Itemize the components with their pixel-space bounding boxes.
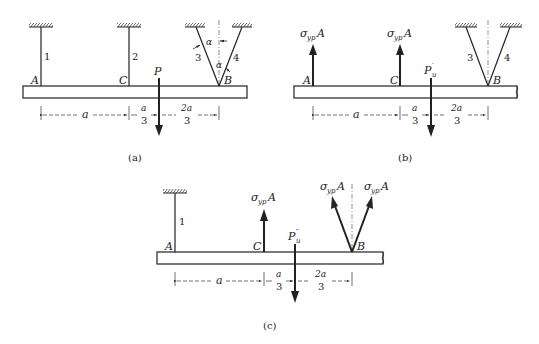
load-label: P u ′ [423,62,437,79]
bar-label: 3 [195,52,201,63]
bar-label: 4 [233,52,239,63]
angle-label: α [206,37,212,47]
point-label: A [30,74,39,87]
force-label-C: σ yp A [251,191,276,206]
bar-label: 1 [179,216,185,227]
point-label: C [119,74,128,87]
svg-text:A: A [316,27,325,40]
panel-c: 1 σ yp A σ yp A σ yp A A C B P u [157,180,389,331]
beam [294,86,517,98]
dimension-label: 2a [450,103,462,113]
dimension-label: a [82,108,89,121]
svg-text:A: A [403,27,412,40]
ceiling-support [29,23,252,27]
svg-text:yp: yp [370,187,380,195]
bar-label: 4 [504,52,510,63]
bar-label: 1 [44,51,50,62]
point-label: A [302,74,311,87]
svg-text:yp: yp [393,34,403,42]
point-label: B [356,240,365,253]
svg-text:A: A [267,191,276,204]
dimension-label: 3 [412,115,418,126]
bar-label: 2 [132,51,138,62]
dimension-label: a [216,274,223,287]
beam [157,252,383,264]
force-label-B4: σ yp A [364,180,389,195]
dimension-label: a [353,108,360,121]
dimension-label: 3 [184,115,190,126]
caption: (b) [398,152,412,163]
point-label: C [253,240,262,253]
dimension-label: a [276,269,281,279]
force-arrow-B-bar3 [335,206,352,252]
dimension-label: 2a [180,103,192,113]
caption: (a) [128,152,142,163]
panel-b: 3 4 σ yp A σ yp A A C B P u ′ [294,20,522,163]
dimension-label: 3 [141,115,147,126]
dimension-line [41,106,219,120]
panel-a: α α 1 2 3 4 A C B P a a 3 2a 3 (a) [23,20,252,163]
svg-text:′: ′ [432,62,434,70]
beam [23,86,247,98]
svg-text:P: P [287,230,296,243]
force-label-A: σ yp A [300,27,325,42]
load-label: P [153,65,162,78]
point-label: B [223,74,232,87]
dimension-label: a [141,103,146,113]
bar-label: 3 [467,52,473,63]
svg-text:P: P [423,64,432,77]
beam-diagrams: α α 1 2 3 4 A C B P a a 3 2a 3 (a) [0,0,539,344]
force-label-B3: σ yp A [320,180,345,195]
svg-text:A: A [336,180,345,193]
dimension-label: 2a [314,269,326,279]
svg-text:A: A [380,180,389,193]
svg-text:yp: yp [306,34,316,42]
point-label: C [390,74,399,87]
angle-label: α [216,60,222,70]
svg-text:u: u [432,71,437,79]
svg-text:″: ″ [296,228,299,236]
dimension-label: a [412,103,417,113]
svg-text:yp: yp [257,198,267,206]
load-label: P u ″ [287,228,301,245]
force-label-C: σ yp A [387,27,412,42]
dimension-label: 3 [276,281,282,292]
point-label: A [164,240,173,253]
svg-text:yp: yp [326,187,336,195]
caption: (c) [263,320,277,331]
svg-text:u: u [296,237,301,245]
dimension-label: 3 [454,115,460,126]
point-label: B [492,74,501,87]
dimension-label: 3 [318,281,324,292]
